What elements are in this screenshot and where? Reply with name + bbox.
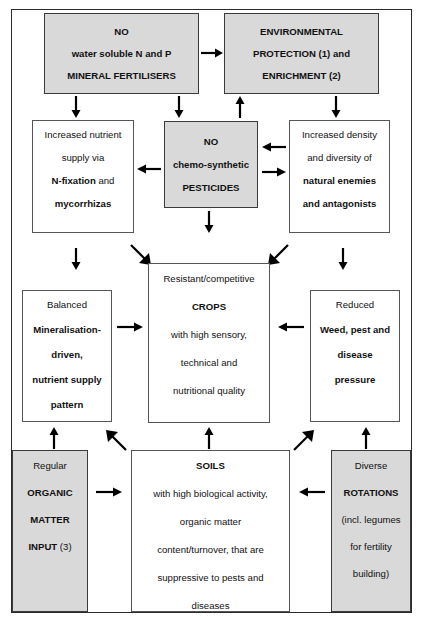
arrow-pesticides-down-to-crops [203,211,215,233]
arrow-rotations-to-soils [299,486,325,498]
arrow-enemies-down-to-reduced [337,248,349,270]
box-line: chemo-synthetic [165,159,257,170]
box-line: natural enemies [290,175,389,186]
box-diverse-rotations: Diverse ROTATIONS (incl. legumes for fer… [331,450,411,612]
arrow-fertilisers-down-right [173,96,185,118]
arrow-fertilisers-to-environmental [201,47,223,59]
box-line: pressure [311,374,399,385]
box-line-bold-part: N-fixation [52,175,96,186]
box-line: Mineralisation- [23,324,111,335]
arrow-soils-up-to-crops [203,427,215,449]
box-line: suppressive to pests and [132,572,289,583]
box-line: Regular [13,460,87,471]
box-line: SOILS [132,460,289,471]
box-line-plain-part: and [96,175,115,186]
box-line: Resistant/competitive [149,273,269,284]
box-line: with high sensory, [149,329,269,340]
box-resistant-crops: Resistant/competitive CROPS with high se… [148,263,270,423]
box-line: Increased nutrient [33,129,133,140]
box-line: PESTICIDES [165,182,257,193]
box-line: water soluble N and P [45,48,198,59]
box-no-mineral-fertilisers: NO water soluble N and P MINERAL FERTILI… [44,13,199,94]
box-line: technical and [149,357,269,368]
box-line: and diversity of [290,152,389,163]
box-line: nutrient supply [23,374,111,385]
box-line: building) [332,568,410,579]
box-line: Reduced [311,299,399,310]
box-line-plain-part: (3) [57,541,71,552]
arrow-mineralisation-to-crops [117,321,143,333]
box-line: NO [165,136,257,147]
box-line: Balanced [23,299,111,310]
arrow-soils-diag-to-mineralisation [104,428,128,452]
arrow-pesticides-to-enemies [262,166,286,178]
box-line: Increased density [290,129,389,140]
box-line-mixed: INPUT (3) [13,541,87,552]
box-line: diseases [132,600,289,611]
box-line: and antagonists [290,198,389,209]
box-line-bold-part: INPUT [28,541,57,552]
arrow-pesticides-up-to-environmental [234,96,246,118]
box-line: Diverse [332,460,410,471]
arrow-fertilisers-down-left [70,96,82,118]
box-line: supply via [33,152,133,163]
arrow-environmental-down-to-enemies [330,96,342,118]
box-line: ENRICHMENT (2) [225,70,378,81]
box-line: ROTATIONS [332,487,410,498]
box-line: (incl. legumes [332,514,410,525]
arrow-pesticides-to-nutrient-supply [137,163,161,175]
box-line: pattern [23,399,111,410]
diagram-canvas: NO water soluble N and P MINERAL FERTILI… [0,0,423,629]
box-line: ORGANIC [13,487,87,498]
box-line: PROTECTION (1) and [225,48,378,59]
box-line-mixed: N-fixation and [33,175,133,186]
box-line: NO [45,26,198,37]
box-no-pesticides: NO chemo-synthetic PESTICIDES [164,121,258,208]
box-line: Weed, pest and [311,324,399,335]
arrow-rotations-up-to-reduced [360,427,372,449]
arrow-reduced-to-crops [278,321,304,333]
arrow-enemies-to-pesticides [262,141,286,153]
box-line: MINERAL FERTILISERS [45,70,198,81]
box-line: with high biological activity, [132,488,289,499]
box-reduced-pressure: Reduced Weed, pest and disease pressure [310,290,400,422]
box-line: mycorrhizas [33,198,133,209]
arrow-organic-matter-to-soils [96,486,122,498]
box-line: MATTER [13,514,87,525]
box-line: organic matter [132,516,289,527]
arrow-organic-matter-up-to-mineralisation [48,427,60,449]
box-line: CROPS [149,301,269,312]
box-line: nutritional quality [149,385,269,396]
box-line: content/turnover, that are [132,544,289,555]
box-line: driven, [23,349,111,360]
box-soils: SOILS with high biological activity, org… [131,450,290,612]
box-increased-density-diversity: Increased density and diversity of natur… [289,120,390,233]
box-increased-nutrient-supply: Increased nutrient supply via N-fixation… [32,120,134,233]
box-organic-matter-input: Regular ORGANIC MATTER INPUT (3) [12,450,88,612]
box-balanced-mineralisation: Balanced Mineralisation- driven, nutrien… [22,290,112,422]
arrow-nutrient-supply-down-to-mineralisation [70,248,82,270]
arrow-soils-diag-to-reduced [292,428,316,452]
box-line: for fertility [332,541,410,552]
box-line: ENVIRONMENTAL [225,26,378,37]
box-line: disease [311,349,399,360]
box-environmental-protection: ENVIRONMENTAL PROTECTION (1) and ENRICHM… [224,13,379,94]
